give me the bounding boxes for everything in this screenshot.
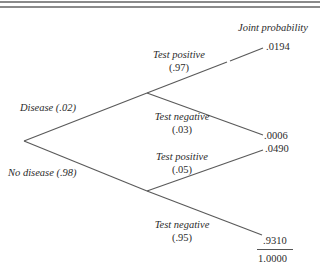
prob-no-disease-test-negative: (.95) <box>147 232 217 244</box>
joint-prob-disease-positive: .0194 <box>266 41 290 53</box>
branch-disease-test-positive-b <box>230 48 263 61</box>
label-no-disease-test-negative: Test negative <box>147 219 217 231</box>
joint-prob-disease-negative: .0006 <box>264 130 288 142</box>
prob-no-disease-test-positive: (.05) <box>147 164 217 176</box>
joint-prob-no-disease-positive: .0490 <box>265 143 289 155</box>
branch-disease <box>24 93 147 141</box>
branch-label-no-disease: No disease (.98) <box>8 167 77 179</box>
joint-prob-no-disease-negative: .9310 <box>263 235 287 247</box>
branch-label-disease: Disease (.02) <box>20 102 76 114</box>
joint-prob-total: 1.0000 <box>258 253 287 265</box>
branch-no-disease <box>24 141 147 191</box>
joint-probability-header: Joint probability <box>238 22 308 34</box>
label-disease-test-negative: Test negative <box>147 111 217 123</box>
sum-rule <box>257 249 293 250</box>
label-disease-test-positive: Test positive <box>147 49 211 61</box>
prob-disease-test-positive: (.97) <box>147 62 211 74</box>
label-no-disease-test-positive: Test positive <box>147 151 217 163</box>
prob-disease-test-negative: (.03) <box>147 124 217 136</box>
